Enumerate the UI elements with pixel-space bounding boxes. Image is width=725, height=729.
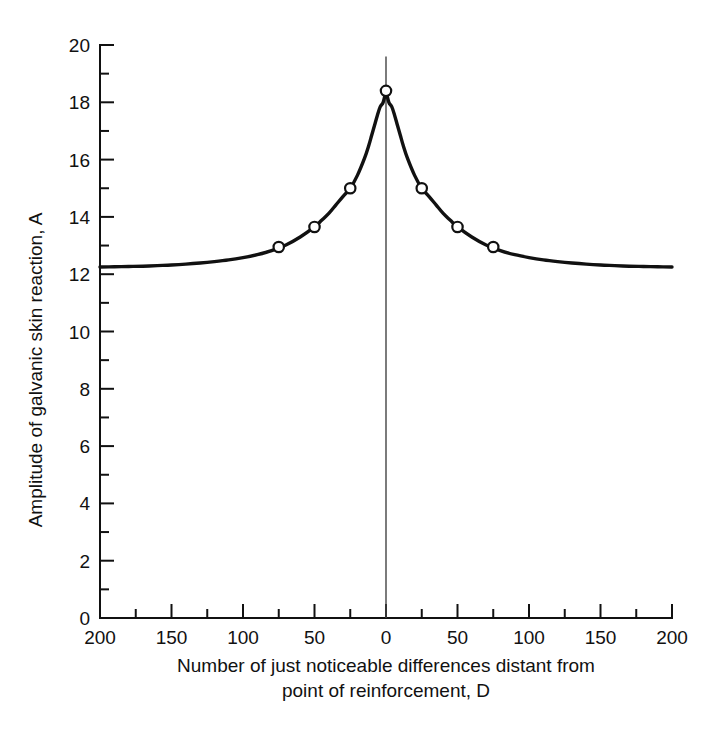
chart-canvas: 02468101214161820 2001501005005010015020…	[0, 0, 725, 729]
x-tick-label: 0	[381, 627, 392, 648]
x-tick-label: 100	[513, 627, 545, 648]
chart-figure: 02468101214161820 2001501005005010015020…	[0, 0, 725, 729]
y-tick-label: 18	[69, 92, 90, 113]
x-tick-label: 200	[84, 627, 116, 648]
curve-segment-right	[386, 91, 672, 267]
y-tick-label: 6	[79, 436, 90, 457]
x-tick-label: 100	[227, 627, 259, 648]
x-axis-tick-labels: 20015010050050100150200	[84, 627, 688, 648]
y-tick-label: 16	[69, 150, 90, 171]
x-tick-label: 200	[656, 627, 688, 648]
x-axis-title-line1: Number of just noticeable differences di…	[177, 655, 595, 676]
y-tick-label: 20	[69, 35, 90, 56]
y-tick-label: 8	[79, 379, 90, 400]
y-axis-tick-labels: 02468101214161820	[69, 35, 91, 629]
data-point-marker	[274, 242, 284, 252]
y-tick-label: 2	[79, 551, 90, 572]
data-point-marker	[345, 183, 355, 193]
y-tick-label: 4	[79, 493, 90, 514]
data-point-marker	[309, 222, 319, 232]
x-tick-label: 50	[447, 627, 468, 648]
x-tick-label: 50	[304, 627, 325, 648]
y-tick-label: 10	[69, 322, 90, 343]
x-tick-label: 150	[585, 627, 617, 648]
x-tick-label: 150	[156, 627, 188, 648]
y-tick-label: 0	[79, 608, 90, 629]
y-tick-label: 14	[69, 207, 91, 228]
data-point-marker	[452, 222, 462, 232]
data-point-marker	[417, 183, 427, 193]
y-tick-label: 12	[69, 264, 90, 285]
y-axis-title: Amplitude of galvanic skin reaction, A	[25, 212, 46, 527]
data-point-marker	[488, 242, 498, 252]
data-point-marker	[381, 86, 391, 96]
curve-segment-left	[100, 91, 386, 267]
x-axis-title-line2: point of reinforcement, D	[282, 680, 490, 701]
